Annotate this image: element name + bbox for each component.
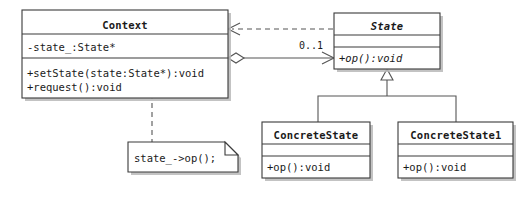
diagram-canvas: 0..1 Context -state_:State* +setState(st… [0,0,525,198]
class-box-concrete-state[interactable]: ConcreteState +op():void [262,122,373,181]
edge-generalization-group [318,69,456,122]
multiplicity-label: 0..1 [299,40,323,51]
note-text: state_->op(); [134,152,216,165]
class-box-concrete-state1[interactable]: ConcreteState1 +op():void [398,122,516,181]
context-operation-0: +setState(state:State*):void [27,67,204,79]
context-title: Context [102,19,148,31]
concrete-state1-title: ConcreteState1 [410,129,501,141]
concrete-state1-operation-0: +op():void [403,161,466,173]
context-attribute-0: -state_:State* [27,41,116,54]
class-box-state[interactable]: State +op():void [334,13,443,72]
uml-class-diagram: 0..1 Context -state_:State* +setState(st… [0,0,525,198]
state-operation-0: +op():void [339,52,403,64]
concrete-state-operation-0: +op():void [267,161,330,173]
note-box[interactable]: state_->op(); [128,142,241,175]
note-fold-corner-icon [225,142,238,155]
class-box-context[interactable]: Context -state_:State* +setState(state:S… [22,10,231,101]
edge-dependency-state-context [228,23,333,35]
context-operation-1: +request():void [27,81,122,93]
edge-aggregation-context-state: 0..1 [228,40,334,64]
concrete-state-title: ConcreteState [274,129,359,141]
state-title: State [371,20,404,32]
generalization-bus [318,96,456,122]
